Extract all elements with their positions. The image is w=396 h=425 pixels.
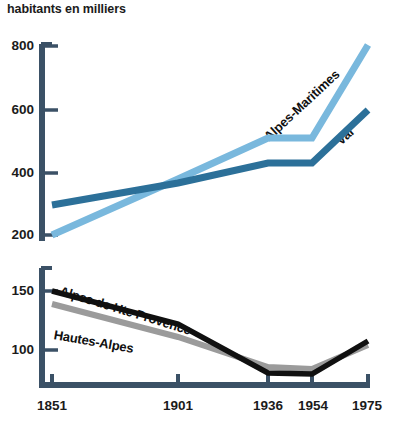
- chart-canvas: [0, 0, 396, 425]
- line-alpes-de-hte-provence: [52, 291, 368, 374]
- top-panel-axes: [41, 44, 58, 241]
- line-alpes-maritimes: [52, 45, 368, 235]
- line-hautes-alpes: [52, 304, 368, 369]
- chart-figure: habitants en milliers 800 600 400 200 15…: [0, 0, 396, 425]
